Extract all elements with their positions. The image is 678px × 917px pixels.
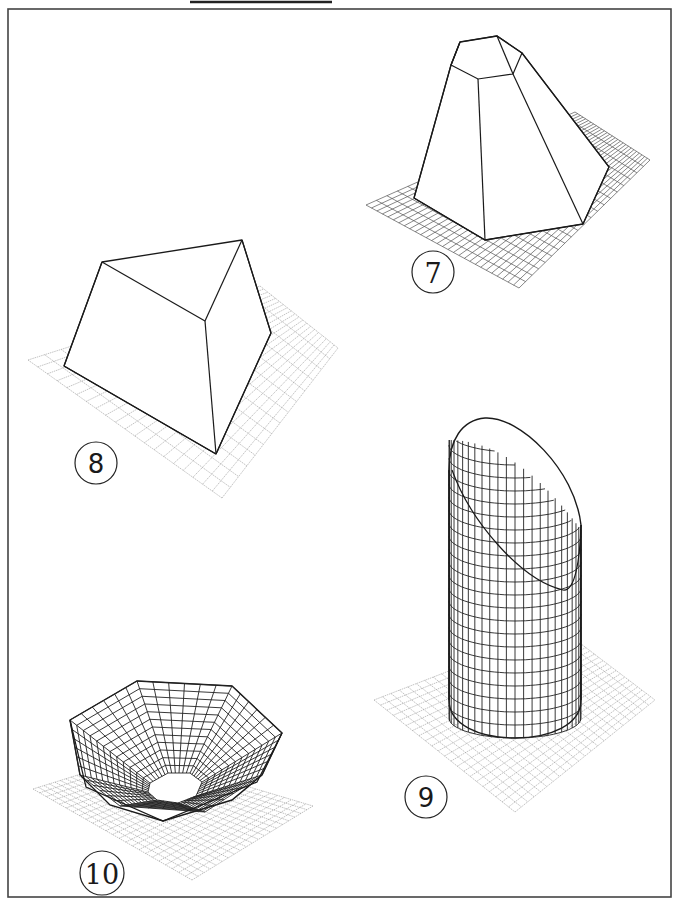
triangular-frustum: [64, 240, 271, 454]
slanted-cylinder-mesh: [449, 418, 581, 738]
figure-number-8: 8: [88, 449, 105, 479]
figure-label-9: 9: [405, 776, 447, 818]
figure-10: 10: [33, 681, 313, 895]
figure-number-10: 10: [85, 859, 119, 890]
figure-number-9: 9: [418, 783, 435, 813]
figure-8: 8: [28, 240, 338, 498]
hexagonal-frustum: [414, 36, 609, 240]
figure-7: 7: [366, 36, 650, 293]
figure-label-10: 10: [80, 851, 124, 895]
figure-9: 9: [374, 418, 655, 818]
figure-label-7: 7: [412, 251, 454, 293]
heptagonal-bowl-mesh: [70, 681, 282, 821]
figure-number-7: 7: [424, 258, 441, 289]
figure-sheet: 7 8 9: [0, 0, 678, 917]
figure-label-8: 8: [75, 442, 117, 484]
